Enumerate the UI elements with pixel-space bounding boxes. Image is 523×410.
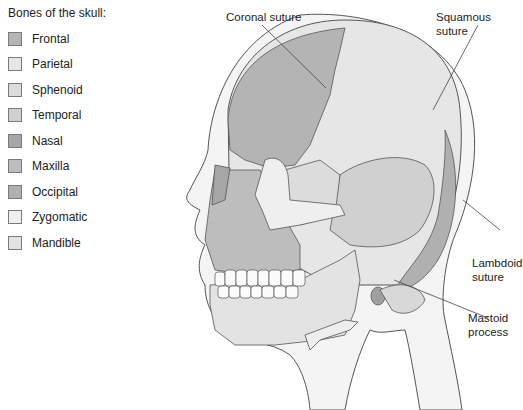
teeth: [215, 270, 305, 298]
label-mastoid-process-2: process: [468, 325, 508, 339]
label-coronal-suture: Coronal suture: [226, 10, 301, 24]
label-squamous-suture: Squamous suture: [436, 10, 517, 38]
label-lambdoid-suture-2: suture: [472, 270, 504, 284]
label-lambdoid-suture-1: Lambdoid: [472, 256, 523, 270]
label-mastoid-process-1: Mastoid: [468, 311, 508, 325]
